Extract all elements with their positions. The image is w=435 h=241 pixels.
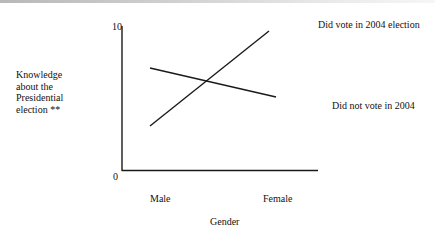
series-did-not-vote-line	[150, 68, 276, 97]
legend-did-not-vote: Did not vote in 2004	[332, 100, 415, 112]
y-tick-10: 10	[112, 21, 122, 33]
x-category-female: Female	[263, 193, 292, 205]
series-did-vote-line	[150, 31, 269, 126]
y-tick-0: 0	[113, 171, 118, 183]
line-chart	[0, 0, 435, 241]
x-axis-title: Gender	[210, 216, 239, 228]
legend-did-vote: Did vote in 2004 election	[318, 19, 420, 31]
y-axis-title: Knowledge about the Presidential electio…	[16, 69, 86, 115]
x-category-male: Male	[150, 193, 171, 205]
